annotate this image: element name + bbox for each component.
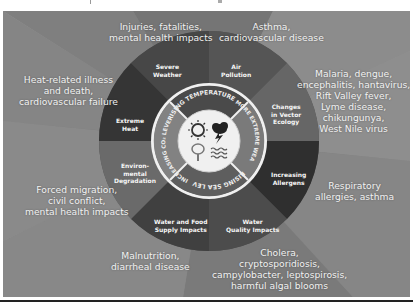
diagram-graphics: RISING TEMPERATURES MORE EXTREME WEATHER… [3, 11, 410, 297]
effects-allergens: Respiratoryallergies, asthma [315, 180, 394, 202]
climate-health-diagram: RISING TEMPERATURES MORE EXTREME WEATHER… [3, 11, 410, 297]
driver-arrows [151, 83, 267, 199]
pathway-extreme-heat: ExtremeHeat [116, 117, 144, 132]
edge-mark [90, 0, 91, 4]
edge-mark [218, 0, 222, 3]
effects-water-food-supply: Malnutrition,diarrheal disease [111, 250, 190, 272]
effects-air-pollution: Asthma,cardiovascular disease [219, 21, 324, 43]
effects-extreme-heat: Heat-related illnessand death,cardiovasc… [19, 74, 118, 107]
pathway-air-pollution: AirPollution [221, 63, 251, 78]
pathway-water-quality: WaterQuality Impacts [226, 218, 279, 233]
pathway-increasing-allergens: IncreasingAllergens [271, 171, 306, 186]
bottom-divider [0, 300, 413, 302]
effects-environmental-degradation: Forced migration,civil conflict,mental h… [25, 184, 129, 217]
center-circle [178, 110, 240, 172]
effects-vector-ecology: Malaria, dengue,encephalitis, hantavirus… [297, 68, 410, 134]
pathway-severe-weather: SevereWeather [153, 63, 182, 78]
effects-water-quality: Cholera,cryptosporidiosis,campylobacter,… [212, 247, 347, 291]
pathway-water-food-supply: Water and FoodSupply Impacts [154, 218, 208, 233]
effects-severe-weather: Injuries, fatalities,mental health impac… [109, 21, 213, 43]
pathway-environmental-degradation: Environ-mentalDegradation [114, 162, 156, 185]
